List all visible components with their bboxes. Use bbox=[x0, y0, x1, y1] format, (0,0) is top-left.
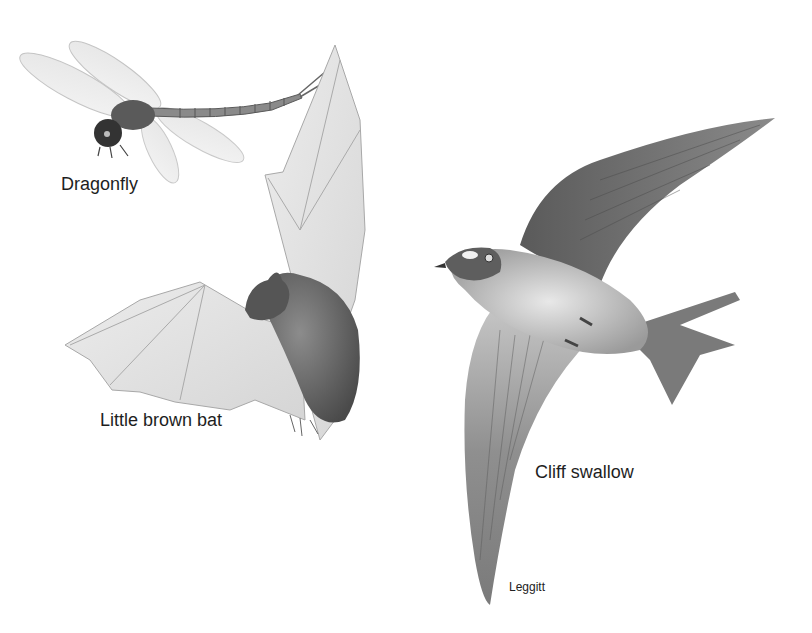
artist-credit: Leggitt bbox=[509, 580, 545, 594]
swallow-upper-wing bbox=[520, 118, 775, 285]
illustration bbox=[0, 0, 812, 633]
swallow-label: Cliff swallow bbox=[535, 462, 634, 483]
bat-label: Little brown bat bbox=[100, 410, 222, 431]
dragonfly-illustration bbox=[13, 32, 325, 188]
dragonfly-label: Dragonfly bbox=[61, 174, 138, 195]
dragonfly-abdomen bbox=[150, 94, 302, 117]
swallow-forehead-patch bbox=[462, 251, 478, 259]
cliff-swallow-illustration bbox=[434, 118, 775, 605]
swallow-eye bbox=[485, 254, 493, 262]
